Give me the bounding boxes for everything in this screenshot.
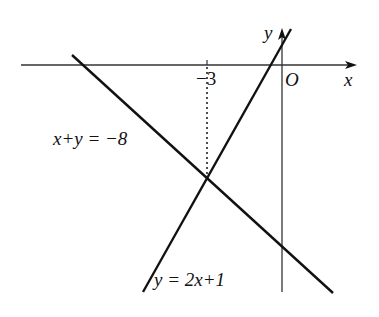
x-axis-label: x [344,70,352,89]
y-axis-label: y [264,23,272,42]
equation-label-y-2x-plus-1: y = 2x+1 [154,270,225,289]
tick-label-minus-3: −3 [196,69,216,88]
equation-label-x-plus-y: x+y = −8 [53,129,127,148]
line-x-plus-y-eq-minus-8 [72,55,333,293]
origin-label: O [285,70,299,89]
line-y-eq-2x-plus-1 [143,29,291,292]
